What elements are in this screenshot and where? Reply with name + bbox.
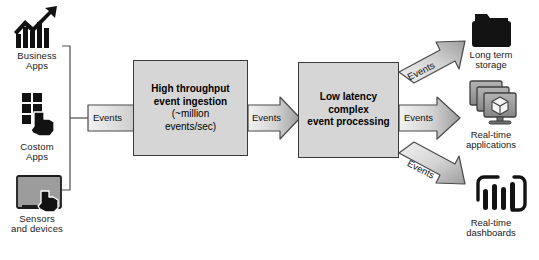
- tablet-touch-icon: [17, 176, 61, 212]
- stage-processing-text: Low latency complex event processing: [303, 91, 393, 129]
- source-sensors-devices: Sensors and devices: [0, 211, 74, 234]
- source-label-custom-apps-line2: Apps: [0, 151, 74, 162]
- app-grid-touch-icon: [22, 93, 54, 136]
- monitor-stack-cube-icon: [470, 81, 516, 124]
- source-business-apps: Business Apps: [0, 48, 74, 71]
- stage-ingestion-text: High throughput event ingestion (~millio…: [147, 83, 233, 133]
- stage-ingestion-line2: event ingestion: [151, 96, 229, 109]
- output-realtime-dashboards: Real-time dashboards: [450, 216, 532, 238]
- stage-processing-line1: Low latency: [307, 91, 389, 104]
- source-label-sensors-line2: and devices: [0, 223, 74, 234]
- dashboard-bars-icon: [478, 177, 525, 210]
- arrow-events-processing: [248, 97, 300, 139]
- stage-processing-line3: event processing: [307, 116, 389, 129]
- output-label-applications-line2: applications: [450, 139, 532, 150]
- bar-chart-growth-icon: [14, 6, 57, 48]
- output-label-storage-line2: storage: [450, 59, 532, 70]
- stage-box-processing: Low latency complex event processing: [298, 62, 399, 158]
- stage-ingestion-line1: High throughput: [151, 83, 229, 96]
- stage-box-ingestion: High throughput event ingestion (~millio…: [133, 60, 248, 156]
- stage-processing-line2: complex: [307, 104, 389, 117]
- output-long-term-storage: Long term storage: [450, 48, 532, 70]
- output-realtime-applications: Real-time applications: [450, 128, 532, 150]
- event-pipeline-diagram: Business Apps Costom Apps Sensors and de…: [0, 0, 539, 260]
- output-label-dashboards-line2: dashboards: [450, 227, 532, 238]
- stage-ingestion-line3: (~million: [151, 108, 229, 121]
- stage-ingestion-line4: events/sec): [151, 121, 229, 134]
- source-label-business-apps-line2: Apps: [0, 60, 74, 71]
- source-custom-apps: Costom Apps: [0, 139, 74, 162]
- folder-icon: [472, 14, 511, 47]
